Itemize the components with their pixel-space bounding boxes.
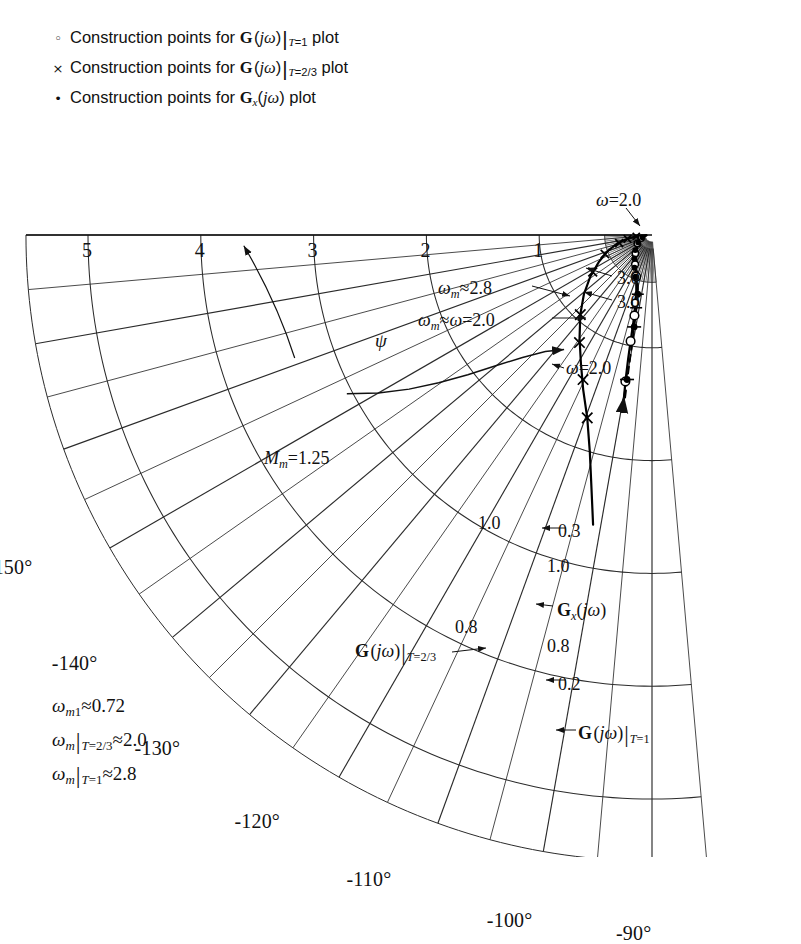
point-0p8-cross: 0.8 [455,617,478,638]
legend-label: Construction points for Gx(jω) plot [70,86,316,113]
corner-note: ωm1≈0.72 [52,692,147,726]
corner-notes: ωm1≈0.72 ωm|T=2/3≈2.0 ωm|T=1≈2.8 [52,692,147,794]
point-0p3: 0.3 [558,521,581,542]
legend-item: ◦ Construction points for G (jω)|T=1 plo… [46,26,466,56]
angle-label-100: -100° [487,909,533,932]
point-1p0-cross: 1.0 [478,513,501,534]
omega-3-upper: 3.0 [617,268,640,289]
angle-label-90: -90° [616,922,651,944]
filled-dot-marker: • [46,86,70,110]
omega-m-2p8: ωm≈2.8 [438,278,492,302]
point-0p2: 0.2 [558,674,581,695]
mm-label: Mm=1.25 [264,448,330,472]
omega-3-lower: 3.0 [617,292,640,313]
psi-label: ψ [375,330,387,352]
gx-jw-label: Gx(jω) [557,600,606,624]
angle-label-130: -130° [135,737,181,760]
omega-2-mid: ω=2.0 [566,358,611,379]
point-0p8-circle: 0.8 [547,636,570,657]
corner-note: ωm|T=2/3≈2.0 [52,726,147,760]
angle-label-110: -110° [346,868,391,891]
radial-label-2: 2 [420,239,430,262]
omega-2-top: ω=2.0 [596,190,641,211]
legend-item: × Construction points for G (jω)|T=2/3 p… [46,56,466,86]
cross-marker: × [46,56,70,80]
angle-label-140: -140° [52,652,98,675]
radial-label-3: 3 [308,239,318,262]
legend-label: Construction points for G (jω)|T=1 plot [70,26,339,53]
radial-label-1: 1 [533,239,543,262]
angle-label-150: -150° [0,556,32,579]
point-1p0-circle: 1.0 [547,556,570,577]
radial-label-5: 5 [82,239,92,262]
legend: ◦ Construction points for G (jω)|T=1 plo… [46,26,466,116]
g-jw-t1-label: G (jω)|T=1 [578,722,650,748]
open-circle-marker: ◦ [46,26,70,50]
omega-m-eq-2p0: ωm≈ω=2.0 [418,310,495,334]
g-jw-t23-label: G (jω)|T=2/3 [355,640,436,666]
angle-label-120: -120° [234,810,280,833]
radial-label-4: 4 [195,239,205,262]
legend-item: • Construction points for Gx(jω) plot [46,86,466,116]
legend-label: Construction points for G (jω)|T=2/3 plo… [70,56,348,83]
corner-note: ωm|T=1≈2.8 [52,760,147,794]
